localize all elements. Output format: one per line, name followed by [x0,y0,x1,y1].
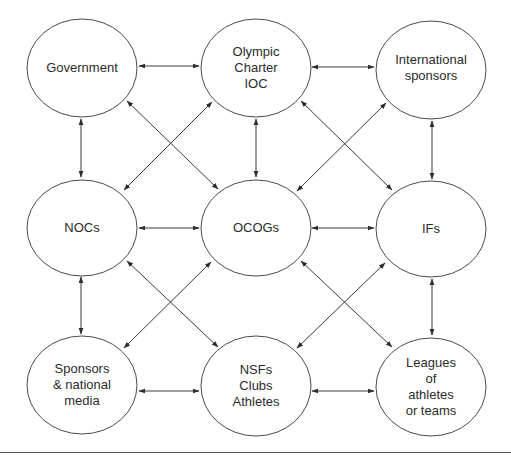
label-line: International [395,52,467,68]
label-international-sponsors: International sponsors [376,19,486,117]
label-line: NSFs [233,362,280,378]
edge-olympic-nocs [124,102,212,190]
label-line: Clubs [233,378,280,394]
label-line: Sponsors [53,361,111,377]
label-line: Athletes [233,394,280,410]
label-line: OCOGs [233,220,279,236]
label-government: Government [27,19,137,117]
label-line: & national [53,377,111,393]
label-line: NOCs [64,220,99,236]
label-nocs: NOCs [27,180,137,276]
label-line: of [406,371,457,387]
label-ifs: IFs [376,181,486,277]
bottom-rule-divider [0,452,511,453]
label-line: Government [46,60,118,76]
label-line: athletes [406,387,457,403]
label-leagues: Leagues of athletes or teams [376,338,486,436]
label-line: sponsors [395,68,467,84]
label-line: Olympic [233,44,280,60]
label-line: IFs [422,221,440,237]
label-line: Charter [233,60,280,76]
label-nsfs-clubs-athletes: NSFs Clubs Athletes [201,336,311,436]
label-sponsors-national-media: Sponsors & national media [27,336,137,434]
label-line: Leagues [406,355,457,371]
label-olympic-charter-ioc: Olympic Charter IOC [201,19,311,117]
label-line: media [53,393,111,409]
edge-sponsors-ocogs [124,262,211,348]
label-ocogs: OCOGs [201,180,311,276]
label-line: or teams [406,403,457,419]
label-line: IOC [233,76,280,92]
